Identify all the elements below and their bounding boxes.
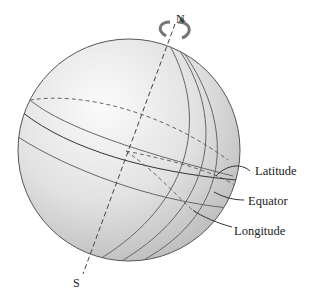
equator-label: Equator bbox=[248, 194, 288, 208]
latitude-label: Latitude bbox=[255, 164, 297, 178]
sphere bbox=[18, 39, 240, 261]
north-pole-label: N bbox=[176, 12, 185, 26]
longitude-label: Longitude bbox=[234, 224, 286, 238]
globe-diagram: N S Latitude Equator Longitude bbox=[0, 0, 315, 297]
south-pole-label: S bbox=[73, 276, 80, 290]
